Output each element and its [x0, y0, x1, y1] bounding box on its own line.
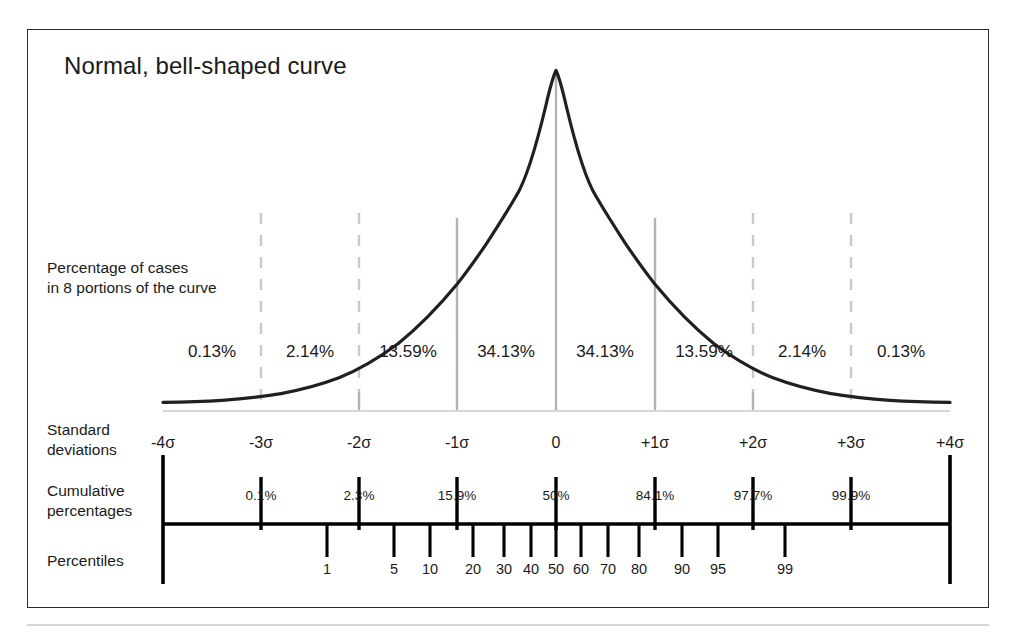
percentile-label-70: 70: [600, 561, 616, 577]
cumulative-percentages-label: Cumulative percentages: [47, 481, 132, 521]
sigma-label-minus3: -3σ: [249, 434, 273, 452]
percentile-label-5: 5: [390, 561, 398, 577]
cumulative-percentages-line1: Cumulative: [47, 481, 132, 501]
sigma-label-plus2: +2σ: [739, 434, 767, 452]
percentage-of-cases-line1: Percentage of cases: [47, 258, 217, 278]
percentile-label-1: 1: [323, 561, 331, 577]
percentile-label-40: 40: [523, 561, 539, 577]
segment-percentage-4: 34.13%: [576, 342, 634, 362]
segment-percentage-1: 2.14%: [286, 342, 334, 362]
standard-deviations-line1: Standard: [47, 420, 117, 440]
cumulative-percentages-line2: percentages: [47, 501, 132, 521]
cumulative-value-mean: 50%: [542, 488, 569, 503]
standard-deviations-line2: deviations: [47, 440, 117, 460]
curve-and-axes: [0, 0, 1013, 637]
cumulative-value-plus3sigma: 99.9%: [832, 488, 870, 503]
percentage-of-cases-label: Percentage of cases in 8 portions of the…: [47, 258, 217, 298]
sigma-label-minus4: -4σ: [151, 434, 175, 452]
percentile-label-90: 90: [674, 561, 690, 577]
percentile-label-99: 99: [777, 561, 793, 577]
percentile-label-95: 95: [710, 561, 726, 577]
percentile-label-50: 50: [548, 561, 564, 577]
sigma-label-minus1: -1σ: [445, 434, 469, 452]
segment-percentage-7: 0.13%: [877, 342, 925, 362]
standard-deviations-label: Standard deviations: [47, 420, 117, 460]
percentile-label-30: 30: [496, 561, 512, 577]
sigma-label-plus1: +1σ: [641, 434, 669, 452]
cumulative-value-plus2sigma: 97.7%: [734, 488, 772, 503]
percentile-label-60: 60: [573, 561, 589, 577]
percentile-label-20: 20: [465, 561, 481, 577]
percentile-label-80: 80: [631, 561, 647, 577]
cumulative-value-minus2sigma: 2.3%: [344, 488, 375, 503]
cumulative-value-minus1sigma: 15.9%: [438, 488, 476, 503]
segment-percentage-0: 0.13%: [188, 342, 236, 362]
cumulative-value-plus1sigma: 84.1%: [636, 488, 674, 503]
segment-percentage-2: 13.59%: [379, 342, 437, 362]
percentiles-label: Percentiles: [47, 551, 124, 571]
cumulative-value-minus3sigma: 0.1%: [246, 488, 277, 503]
percentile-label-10: 10: [422, 561, 438, 577]
segment-percentage-6: 2.14%: [778, 342, 826, 362]
normal-curve-figure: Normal, bell-shaped curve: [0, 0, 1013, 637]
sigma-label-minus2: -2σ: [347, 434, 371, 452]
segment-percentage-5: 13.59%: [675, 342, 733, 362]
sigma-label-mean: 0: [552, 434, 561, 452]
segment-percentage-3: 34.13%: [477, 342, 535, 362]
percentage-of-cases-line2: in 8 portions of the curve: [47, 278, 217, 298]
sigma-label-plus4: +4σ: [936, 434, 964, 452]
sigma-label-plus3: +3σ: [837, 434, 865, 452]
